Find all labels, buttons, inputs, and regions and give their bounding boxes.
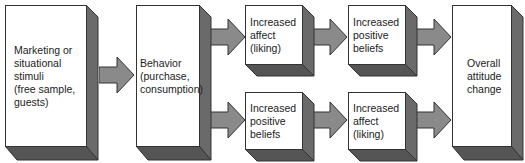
- box-face: Overall attitude change: [452, 5, 512, 147]
- arrow-behavior-to-beliefs-icon: [210, 100, 246, 140]
- arrow-beliefs-to-affect-icon: [312, 100, 348, 140]
- box-top-increased-affect: Increased affect (liking): [245, 5, 315, 77]
- arrow-behavior-to-affect-icon: [210, 17, 246, 57]
- arrow-affect-to-beliefs-icon: [312, 17, 348, 57]
- box-label: Increased affect (liking): [246, 16, 296, 55]
- box-label: Increased positive beliefs: [246, 102, 296, 141]
- box-face: Increased affect (liking): [348, 92, 406, 150]
- box-label: Behavior (purchase, consumption): [137, 57, 203, 96]
- box-label: Increased affect (liking): [349, 102, 399, 141]
- box-face: Increased positive beliefs: [245, 92, 303, 150]
- box-face: Behavior (purchase, consumption): [136, 5, 200, 147]
- box-face: Marketing or situational stimuli (free s…: [5, 5, 87, 147]
- box-overall-attitude-change: Overall attitude change: [452, 5, 524, 161]
- box-marketing-stimuli: Marketing or situational stimuli (free s…: [5, 5, 99, 161]
- box-label: Increased positive beliefs: [349, 16, 399, 55]
- box-top-increased-beliefs: Increased positive beliefs: [348, 5, 418, 77]
- box-bottom-increased-affect: Increased affect (liking): [348, 92, 418, 162]
- box-face: Increased positive beliefs: [348, 5, 406, 65]
- box-label: Overall attitude change: [453, 57, 501, 96]
- box-label: Marketing or situational stimuli (free s…: [6, 44, 75, 109]
- box-face: Increased affect (liking): [245, 5, 303, 65]
- arrow-stimuli-to-behavior-icon: [99, 55, 135, 95]
- arrow-affect-to-attitude-icon: [416, 100, 452, 140]
- box-bottom-increased-beliefs: Increased positive beliefs: [245, 92, 315, 162]
- box-behavior: Behavior (purchase, consumption): [136, 5, 212, 161]
- arrow-beliefs-to-attitude-icon: [416, 17, 452, 57]
